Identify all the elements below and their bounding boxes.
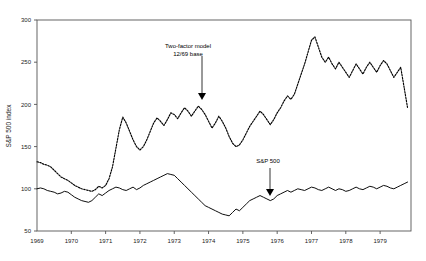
y-tick-label: 200 <box>21 102 32 108</box>
x-tick-label: 1972 <box>133 238 147 244</box>
y-tick-label: 250 <box>21 59 32 65</box>
y-axis-title: S&P 500 index <box>5 104 12 148</box>
x-tick-label: 1975 <box>236 238 250 244</box>
x-tick-label: 1969 <box>30 238 44 244</box>
y-tick-label: 50 <box>24 228 31 234</box>
x-tick-label: 1976 <box>271 238 285 244</box>
x-tick-label: 1971 <box>99 238 113 244</box>
x-tick-label: 1977 <box>305 238 319 244</box>
x-tick-label: 1978 <box>339 238 353 244</box>
y-tick-label: 150 <box>21 144 32 150</box>
y-tick-label: 100 <box>21 186 32 192</box>
x-tick-label: 1970 <box>65 238 79 244</box>
annotation-text-line1: S&P 500 <box>256 158 280 164</box>
x-tick-label: 1973 <box>168 238 182 244</box>
y-tick-label: 300 <box>21 17 32 23</box>
annotation-text-line2: 12/69 base <box>173 51 203 57</box>
sp500-two-factor-line-chart: 50100150200250300 1969197019711972197319… <box>0 0 426 261</box>
chart-container: 50100150200250300 1969197019711972197319… <box>0 0 426 261</box>
chart-background <box>0 0 426 261</box>
x-tick-label: 1974 <box>202 238 216 244</box>
x-tick-label: 1979 <box>373 238 387 244</box>
annotation-text-line1: Two-factor model <box>165 43 211 49</box>
